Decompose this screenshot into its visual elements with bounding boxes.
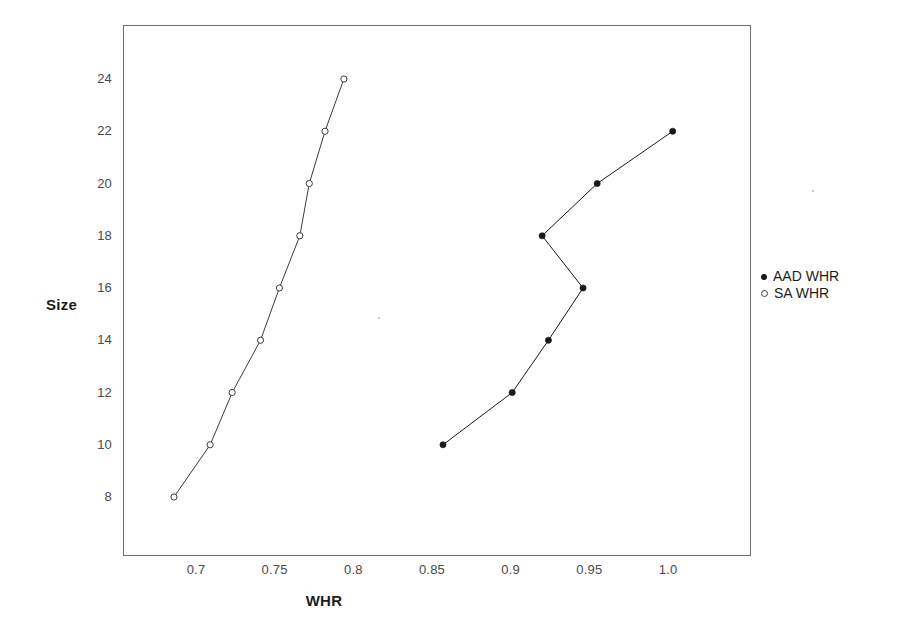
figure-canvas: 81012141618202224 0.70.750.80.850.90.951… [0,0,898,635]
open-circle-icon [761,290,768,297]
legend: AAD WHR SA WHR [760,268,839,302]
y-tick-label: 10 [72,437,112,452]
y-tick-label: 22 [72,123,112,138]
y-tick-label: 18 [72,228,112,243]
y-tick-label: 14 [72,332,112,347]
x-axis-title: WHR [0,592,898,609]
y-tick-label: 24 [72,71,112,86]
legend-item-aad-whr[interactable]: AAD WHR [760,268,839,285]
x-tick-label: 0.75 [251,562,299,577]
y-tick-label: 16 [72,280,112,295]
legend-item-sa-whr[interactable]: SA WHR [760,285,839,302]
x-tick-label: 0.7 [172,562,220,577]
x-tick-label: 1.0 [644,562,692,577]
filled-circle-icon [761,274,767,280]
x-tick-label: 0.85 [408,562,456,577]
x-tick-label: 0.9 [487,562,535,577]
x-tick-label: 0.95 [565,562,613,577]
x-tick-label: 0.8 [329,562,377,577]
scan-speck [378,317,380,319]
legend-item-label: AAD WHR [773,268,839,285]
y-tick-label: 8 [72,489,112,504]
legend-item-label: SA WHR [774,285,829,302]
plot-frame [123,25,751,556]
y-tick-label: 12 [72,385,112,400]
y-axis-title: Size [46,296,77,313]
scan-speck [812,190,814,192]
y-tick-label: 20 [72,176,112,191]
